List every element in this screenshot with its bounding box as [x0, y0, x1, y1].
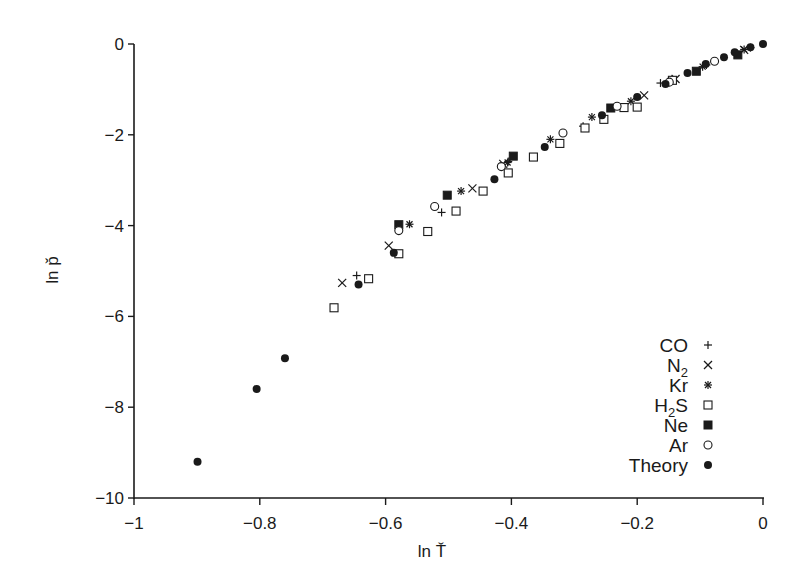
data-point	[424, 228, 432, 236]
legend-marker-icon	[704, 401, 712, 409]
data-point	[684, 69, 692, 77]
legend-marker-icon	[704, 381, 712, 389]
y-tick-label: −2	[105, 126, 124, 145]
legend-label: Ne	[664, 415, 688, 436]
data-point	[253, 385, 261, 393]
legend-item-ne: Ne	[664, 415, 712, 436]
x-tick-label: −0.6	[369, 514, 403, 533]
data-point	[711, 57, 719, 65]
y-axis-label: ln p̌	[43, 256, 62, 283]
data-point	[541, 143, 549, 151]
y-tick-label: −8	[105, 398, 124, 417]
data-point	[457, 187, 465, 195]
legend-marker-icon	[704, 361, 712, 369]
data-point	[759, 40, 767, 48]
y-tick-label: −10	[95, 489, 124, 508]
legend-marker-icon	[704, 461, 712, 469]
data-point	[640, 91, 648, 99]
data-point	[395, 227, 403, 235]
data-point	[490, 175, 498, 183]
x-tick-label: −0.2	[620, 514, 654, 533]
data-point	[468, 184, 476, 192]
data-point	[338, 279, 346, 287]
data-point	[702, 60, 710, 68]
data-point	[613, 102, 621, 110]
x-tick-label: 0	[758, 514, 767, 533]
legend-marker-icon	[704, 341, 712, 349]
series-co	[353, 44, 755, 280]
data-point	[281, 354, 289, 362]
data-point	[529, 153, 537, 161]
y-tick-label: −6	[105, 307, 124, 326]
data-point	[598, 111, 606, 119]
data-point	[546, 135, 554, 143]
data-point	[633, 93, 641, 101]
data-point	[559, 129, 567, 137]
data-point	[720, 53, 728, 61]
data-point	[330, 304, 338, 312]
legend-label: Kr	[669, 375, 689, 396]
data-point	[746, 43, 754, 51]
data-point	[633, 103, 641, 111]
data-point	[662, 80, 670, 88]
y-tick-label: 0	[115, 35, 124, 54]
data-point	[355, 281, 363, 289]
series-h2s	[330, 76, 676, 311]
x-tick-label: −0.4	[495, 514, 529, 533]
data-point	[443, 191, 451, 199]
data-point	[365, 275, 373, 283]
y-ticks: 0−2−4−6−8−10	[95, 35, 134, 508]
scatter-chart: 0−2−4−6−8−10 −1−0.8−0.6−0.4−0.20 ln Ť l…	[0, 0, 799, 585]
data-point	[731, 48, 739, 56]
data-point	[390, 249, 398, 257]
data-point	[692, 67, 700, 75]
data-point	[504, 169, 512, 177]
data-point	[588, 113, 596, 121]
data-point	[194, 458, 202, 466]
legend-label: Ar	[669, 435, 689, 456]
legend-item-co: CO	[660, 335, 713, 356]
data-point	[353, 272, 361, 280]
data-point	[438, 208, 446, 216]
data-point	[497, 163, 505, 171]
legend-label: CO	[660, 335, 689, 356]
data-point	[406, 220, 414, 228]
data-point	[385, 242, 393, 250]
data-point	[581, 124, 589, 132]
legend-item-ar: Ar	[669, 435, 712, 456]
data-point	[452, 207, 460, 215]
legend-label: Theory	[629, 455, 689, 476]
x-tick-label: −0.8	[243, 514, 277, 533]
legend-item-theory: Theory	[629, 455, 712, 476]
legend-marker-icon	[704, 441, 712, 449]
x-ticks: −1−0.8−0.6−0.4−0.20	[124, 498, 767, 533]
legend: CON2KrH2SNeArTheory	[629, 335, 712, 476]
data-point	[509, 152, 517, 160]
data-point	[556, 139, 564, 147]
data-point	[479, 187, 487, 195]
y-tick-label: −4	[105, 217, 124, 236]
series-ne	[395, 51, 742, 229]
legend-item-kr: Kr	[669, 375, 712, 396]
legend-marker-icon	[704, 421, 712, 429]
data-point	[431, 203, 439, 211]
x-tick-label: −1	[124, 514, 143, 533]
x-axis-label: ln Ť	[418, 542, 446, 561]
